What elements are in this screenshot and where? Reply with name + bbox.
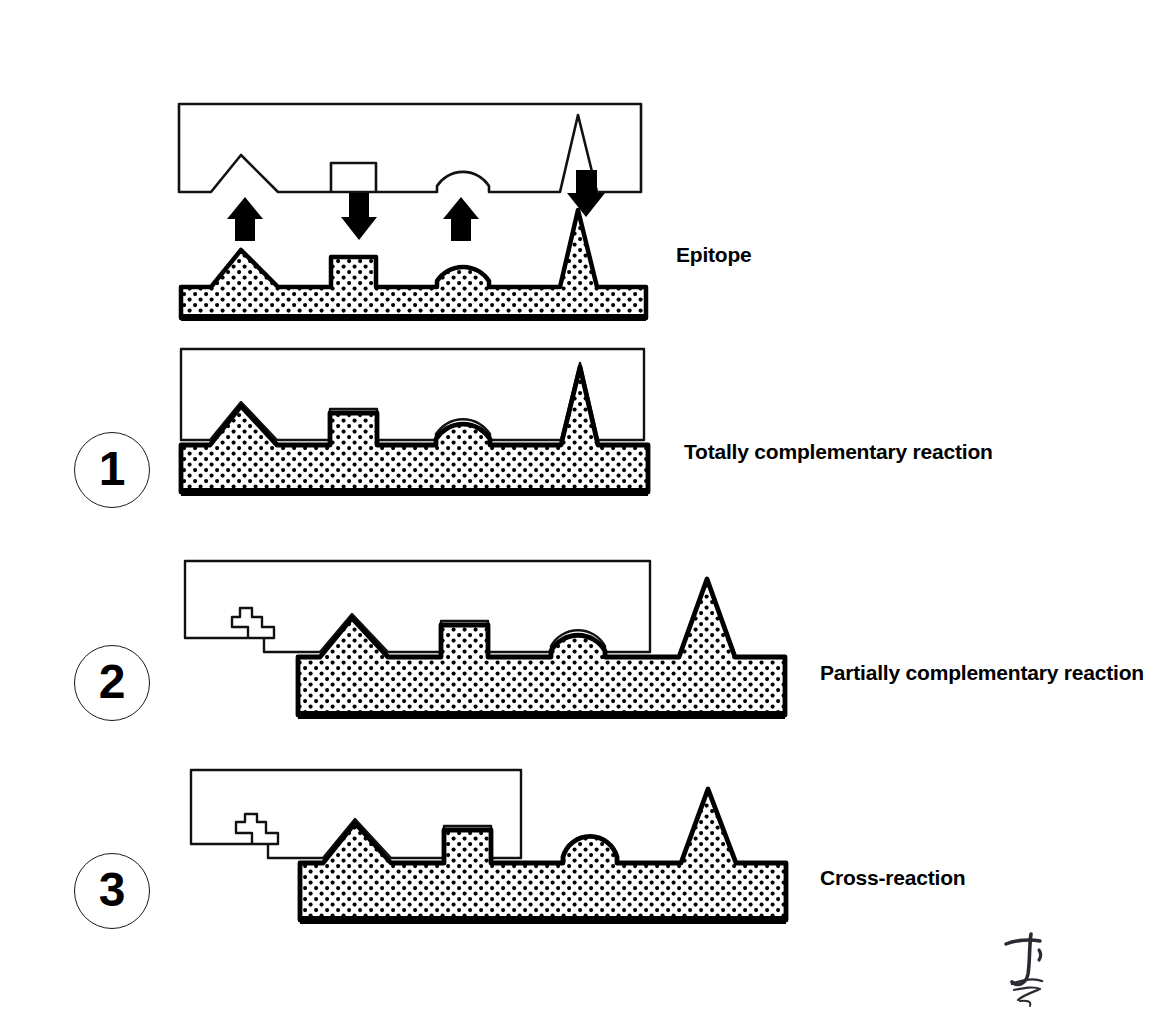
panel-partially-complementary (185, 561, 785, 719)
figure-root: 1 2 3 Epitope Totally complementary reac… (0, 0, 1167, 1012)
caption-cross-reaction: Cross-reaction (820, 866, 965, 890)
arrow-up-dome (443, 197, 479, 241)
panel-cross-reaction (191, 770, 786, 924)
immunology-diagram (0, 0, 1167, 1012)
caption-partially-complementary-reaction: Partially complementary reaction (820, 661, 1144, 685)
panel-totally-complementary (181, 349, 648, 496)
step-number-2: 2 (74, 645, 150, 721)
antigen-total-shadow (181, 488, 648, 496)
caption-totally-complementary-reaction: Totally complementary reaction (684, 440, 993, 464)
antigen-partial-shadow (298, 711, 785, 719)
caption-epitope: Epitope (676, 243, 752, 267)
step-number-1: 1 (74, 432, 150, 508)
artist-signature (1006, 934, 1042, 1006)
antigen-unbound-shadow (181, 314, 646, 321)
antibody-unbound (179, 104, 641, 192)
antigen-cross-shadow (300, 916, 786, 924)
arrow-down-rectangle (341, 193, 377, 240)
panel-epitope (179, 104, 646, 321)
step-number-3: 3 (74, 853, 150, 929)
arrow-up-triangle (227, 197, 263, 241)
